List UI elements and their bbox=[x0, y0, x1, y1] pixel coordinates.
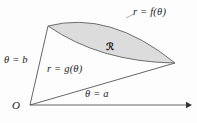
label-upper-ray: θ = b bbox=[4, 55, 28, 66]
label-lower-ray: θ = a bbox=[85, 89, 109, 100]
polar-region-figure: r = f(θ) r = g(θ) θ = b θ = a O ℛ bbox=[0, 0, 197, 123]
label-inner-curve: r = g(θ) bbox=[47, 64, 82, 75]
ray-theta-b-line bbox=[30, 26, 48, 105]
figure-canvas bbox=[0, 0, 197, 123]
label-origin: O bbox=[12, 100, 20, 111]
label-outer-curve: r = f(θ) bbox=[133, 7, 166, 18]
polar-axis-arrowhead bbox=[186, 102, 192, 108]
label-region: ℛ bbox=[106, 42, 114, 52]
